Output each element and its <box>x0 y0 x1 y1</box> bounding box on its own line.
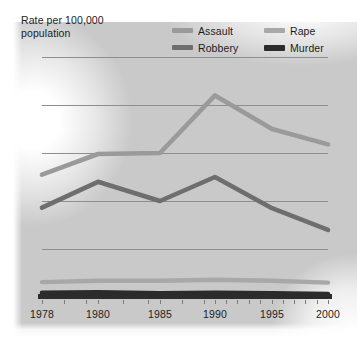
x-axis-tick <box>123 300 124 304</box>
x-axis-tick <box>182 300 183 304</box>
x-tick-label-1995: 1995 <box>252 308 292 320</box>
x-tick-label-1990: 1990 <box>195 308 235 320</box>
x-axis-tick <box>226 300 227 304</box>
x-axis-tick <box>294 300 295 304</box>
x-axis-tick <box>215 300 216 304</box>
x-axis-tick <box>260 300 261 304</box>
x-axis-tick <box>160 300 161 304</box>
series-layer <box>0 0 357 337</box>
series-line-rape <box>42 280 328 283</box>
crime-rate-line-chart: Rate per 100,000 population Assault Rape… <box>0 0 357 337</box>
x-axis-tick <box>249 300 250 304</box>
x-axis-tick <box>98 300 99 304</box>
x-tick-label-1978: 1978 <box>22 308 62 320</box>
x-axis-tick <box>237 300 238 304</box>
x-tick-label-1985: 1985 <box>140 308 180 320</box>
x-axis-baseline <box>38 294 332 299</box>
x-axis-tick <box>283 300 284 304</box>
x-axis-tick <box>204 300 205 304</box>
x-axis-tick <box>328 300 329 304</box>
x-axis-tick <box>317 300 318 304</box>
series-line-assault <box>42 95 328 174</box>
x-axis-tick <box>305 300 306 304</box>
x-axis-tick <box>86 300 87 304</box>
x-axis-tick <box>148 300 149 304</box>
x-axis-tick <box>42 300 43 304</box>
x-axis-tick <box>272 300 273 304</box>
series-line-robbery <box>42 177 328 230</box>
x-tick-label-1980: 1980 <box>78 308 118 320</box>
x-tick-label-2000: 2000 <box>308 308 348 320</box>
x-axis-tick <box>64 300 65 304</box>
